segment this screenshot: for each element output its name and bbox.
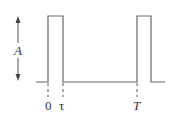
label-tau: τ: [59, 98, 64, 113]
amplitude-label: A: [13, 43, 22, 58]
label-period: T: [133, 98, 141, 113]
label-zero: 0: [45, 98, 52, 113]
arrow-up-icon: [16, 16, 21, 23]
pulse-train-diagram: A 0 τ T: [0, 0, 175, 118]
arrow-down-icon: [16, 74, 21, 81]
pulse-waveform: [36, 16, 165, 82]
